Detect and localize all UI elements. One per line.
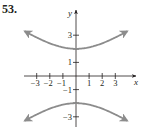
hyperbola-graph: xy−3−2−1123−3−113: [0, 0, 144, 134]
x-tick-label: 1: [87, 78, 91, 88]
x-tick-label: −2: [44, 78, 53, 88]
y-tick-label: 3: [68, 30, 72, 40]
tick-labels: xy−3−2−1123−3−113: [31, 8, 138, 122]
axes: [24, 10, 136, 127]
y-tick-label: −3: [63, 112, 72, 122]
y-tick-label: −1: [63, 85, 72, 95]
x-tick-label: −3: [31, 78, 40, 88]
x-tick-label: 2: [100, 78, 104, 88]
x-axis-label: x: [133, 77, 138, 87]
y-axis-label: y: [67, 8, 72, 18]
y-tick-label: 1: [68, 57, 72, 67]
x-tick-label: 3: [113, 78, 117, 88]
